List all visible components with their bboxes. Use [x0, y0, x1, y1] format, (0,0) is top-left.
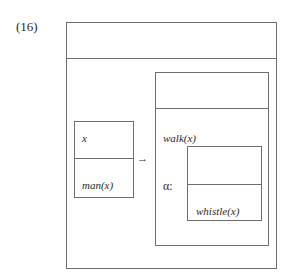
example-number: (16): [16, 20, 38, 34]
embedded-condition: whistle(x): [196, 205, 239, 217]
consequent-condition: walk(x): [163, 132, 196, 144]
implication-arrow: →: [137, 153, 148, 164]
consequent-drs-divider: [155, 108, 269, 109]
antecedent-condition: man(x): [82, 179, 113, 191]
antecedent-drs-divider: [74, 158, 134, 159]
antecedent-universe: x: [82, 132, 87, 144]
embedded-drs-divider: [187, 184, 262, 185]
outer-drs-divider: [66, 58, 277, 59]
alpha-label: α:: [163, 180, 173, 192]
